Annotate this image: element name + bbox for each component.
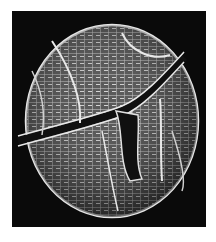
specimen-illustration — [12, 11, 206, 227]
micrograph-panel — [12, 11, 206, 227]
